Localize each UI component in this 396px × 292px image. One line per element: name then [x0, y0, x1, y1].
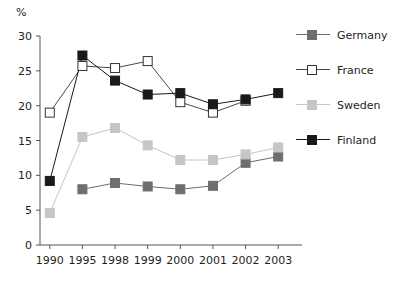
legend-label-sweden: Sweden: [337, 99, 380, 112]
legend-square-icon: [307, 135, 317, 145]
svg-text:2000: 2000: [166, 254, 194, 267]
chart-legend: Germany France Sweden Finland: [296, 28, 394, 168]
chart-container: % 051015202530 1990199519981999200020012…: [0, 0, 396, 292]
legend-item-finland[interactable]: Finland: [296, 133, 394, 147]
legend-label-france: France: [337, 64, 374, 77]
legend-label-germany: Germany: [337, 29, 388, 42]
svg-text:15: 15: [18, 135, 32, 148]
legend-swatch-germany: [296, 28, 330, 42]
svg-text:25: 25: [18, 65, 32, 78]
svg-text:2003: 2003: [264, 254, 292, 267]
legend-square-icon: [307, 30, 317, 40]
svg-text:0: 0: [25, 239, 32, 252]
legend-swatch-france: [296, 63, 330, 77]
legend-item-france[interactable]: France: [296, 63, 394, 77]
legend-label-finland: Finland: [337, 134, 376, 147]
legend-item-germany[interactable]: Germany: [296, 28, 394, 42]
legend-swatch-finland: [296, 133, 330, 147]
svg-text:2001: 2001: [199, 254, 227, 267]
svg-text:20: 20: [18, 100, 32, 113]
svg-text:30: 30: [18, 30, 32, 43]
svg-text:1998: 1998: [101, 254, 129, 267]
svg-text:2002: 2002: [232, 254, 260, 267]
legend-item-sweden[interactable]: Sweden: [296, 98, 394, 112]
x-axis-ticks: 19901995199819992000200120022003: [36, 245, 292, 267]
legend-square-icon: [307, 65, 317, 75]
y-axis-ticks: 051015202530: [18, 30, 40, 252]
svg-text:10: 10: [18, 169, 32, 182]
svg-text:1990: 1990: [36, 254, 64, 267]
svg-text:5: 5: [25, 204, 32, 217]
svg-text:1995: 1995: [68, 254, 96, 267]
legend-square-icon: [307, 100, 317, 110]
legend-swatch-sweden: [296, 98, 330, 112]
series-markers: [45, 51, 282, 217]
svg-text:1999: 1999: [134, 254, 162, 267]
